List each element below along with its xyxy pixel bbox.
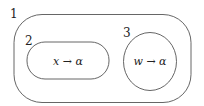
region-3: 3 w → α — [123, 26, 177, 91]
region-2-label: 2 — [25, 34, 33, 48]
region-3-label: 3 — [123, 26, 131, 40]
region-2: 2 x → α — [25, 34, 109, 79]
region-3-mapping: w → α — [133, 55, 167, 68]
region-1-label: 1 — [10, 7, 18, 21]
nested-regions-diagram: 1 2 x → α 3 w → α — [0, 0, 204, 106]
region-2-mapping: x → α — [53, 55, 83, 68]
